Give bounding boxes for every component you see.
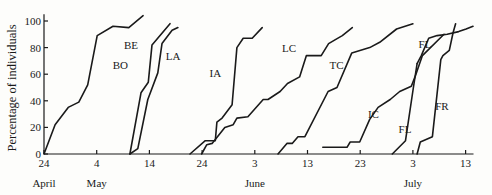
- axes: 020406080100244142431323313AprilMayJuneJ…: [25, 14, 474, 189]
- curve-ic: [323, 34, 444, 147]
- series-label-fr: FR: [435, 100, 449, 112]
- x-tick-label: 13: [460, 157, 472, 169]
- x-tick-label: 13: [302, 157, 314, 169]
- y-tick-label: 100: [25, 15, 42, 27]
- x-tick-label: 3: [252, 157, 258, 169]
- series-labels: BEBOLAIALCTCICFLFLFR: [113, 38, 449, 135]
- x-tick-label: 23: [355, 157, 367, 169]
- curve-ia: [190, 28, 262, 154]
- x-tick-label: 3: [410, 157, 416, 169]
- x-tick-label: 24: [197, 157, 209, 169]
- curve-tc: [278, 24, 413, 154]
- series-label-ia: IA: [209, 67, 221, 79]
- curve-be: [44, 16, 143, 154]
- x-tick-label: 4: [94, 157, 100, 169]
- series-label-tc: TC: [329, 59, 343, 71]
- month-label: June: [245, 177, 265, 189]
- month-label: May: [87, 177, 108, 189]
- series-label-be: BE: [124, 39, 138, 51]
- series-label-ic: IC: [368, 108, 379, 120]
- y-tick-label: 80: [30, 42, 42, 54]
- y-tick-label: 40: [30, 95, 42, 107]
- month-label: April: [32, 177, 55, 189]
- x-tick-label: 14: [144, 157, 156, 169]
- series-label-fl: FL: [399, 123, 412, 135]
- y-axis-label: Percentage of individuals: [5, 24, 19, 151]
- y-tick-label: 60: [30, 68, 42, 80]
- x-tick-label: 24: [39, 157, 51, 169]
- y-tick-label: 20: [30, 121, 42, 133]
- series-label-fl: FL: [419, 38, 432, 50]
- series-label-la: LA: [166, 50, 181, 62]
- series-label-lc: LC: [282, 42, 296, 54]
- month-label: July: [404, 177, 423, 189]
- chart: 020406080100244142431323313AprilMayJuneJ…: [0, 0, 492, 195]
- series-label-bo: BO: [113, 59, 128, 71]
